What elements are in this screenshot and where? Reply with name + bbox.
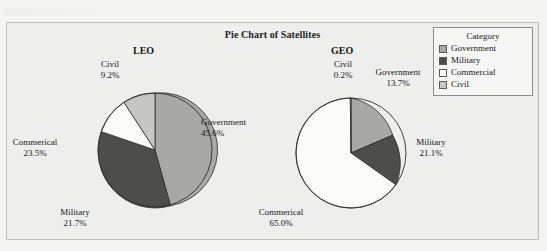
pie-title-leo: LEO: [133, 45, 154, 56]
pie-title-geo: GEO: [331, 45, 353, 56]
legend-label-civil: Civil: [451, 79, 469, 90]
legend-swatch-civil: [439, 81, 447, 89]
pie-label-geo-government: Government 13.7%: [367, 67, 429, 89]
pie-chart-geo: GEO Civil 0.2% Government 13.7% Military…: [259, 45, 459, 235]
legend-label-commercial: Commercial: [451, 67, 496, 78]
pie-label-leo-commercial: Commerical 23.5%: [5, 137, 65, 159]
legend-item-commercial[interactable]: Commercial: [439, 67, 527, 78]
figure-frame: Pie Chart of Satellites LEO Civil 9.2% G…: [6, 22, 539, 240]
legend-label-government: Government: [451, 43, 496, 54]
legend-item-civil[interactable]: Civil: [439, 79, 527, 90]
pie-label-leo-civil: Civil 9.2%: [81, 59, 139, 81]
legend: Category Government Military Commercial …: [433, 27, 533, 96]
pie-label-leo-military: Military 21.7%: [47, 207, 103, 229]
legend-swatch-military: [439, 57, 447, 65]
legend-swatch-commercial: [439, 69, 447, 77]
legend-item-military[interactable]: Military: [439, 55, 527, 66]
pie-label-leo-government: Government 45.6%: [201, 117, 261, 139]
pie-label-geo-military: Military 21.1%: [407, 137, 455, 159]
scan-artifact: [4, 8, 114, 16]
legend-swatch-government: [439, 45, 447, 53]
pie-chart-leo: LEO Civil 9.2% Government 45.6% Commeric…: [55, 45, 255, 235]
pie-label-geo-civil: Civil 0.2%: [321, 59, 365, 81]
legend-item-government[interactable]: Government: [439, 43, 527, 54]
pie-label-geo-commercial: Commerical 65.0%: [250, 207, 312, 229]
legend-label-military: Military: [451, 55, 481, 66]
legend-title: Category: [439, 31, 527, 41]
